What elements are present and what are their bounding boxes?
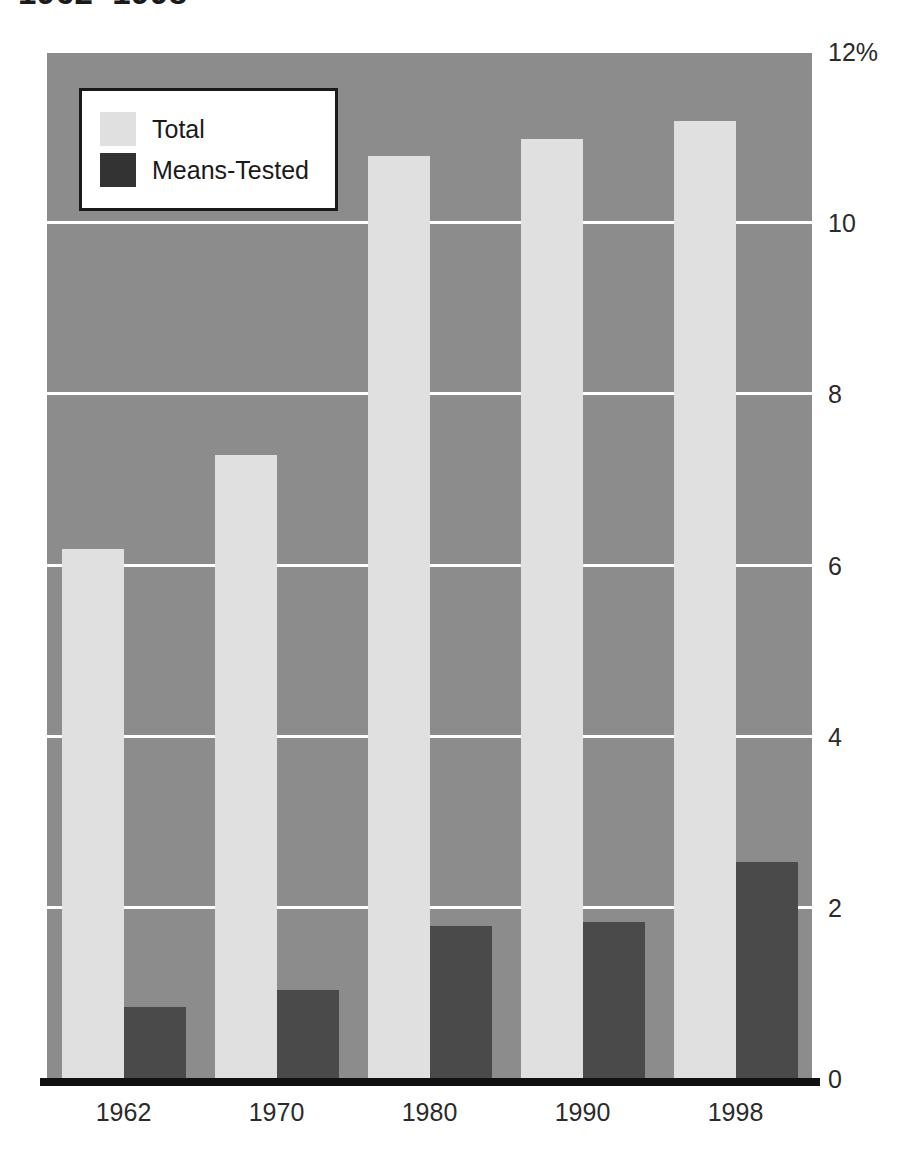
bar-1970-means-tested: [277, 990, 339, 1080]
chart-title: 1962–1998: [18, 0, 188, 12]
legend-label-means-tested: Means-Tested: [152, 158, 309, 183]
bar-1998-total: [674, 121, 736, 1080]
bar-1990-total: [521, 139, 583, 1080]
bar-1962-means-tested: [124, 1007, 186, 1080]
bar-1980-total: [368, 156, 430, 1080]
legend-item-means-tested: Means-Tested: [100, 153, 309, 187]
x-axis-line: [40, 1078, 820, 1086]
y-axis-label-2: 2: [828, 896, 842, 921]
y-axis-label-4: 4: [828, 725, 842, 750]
y-axis-label-12: 12%: [828, 40, 878, 65]
y-axis-label-6: 6: [828, 554, 842, 579]
x-axis-label-1990: 1990: [506, 1098, 659, 1127]
legend-item-total: Total: [100, 112, 309, 146]
y-axis-label-0: 0: [828, 1067, 842, 1092]
y-axis-label-8: 8: [828, 382, 842, 407]
bar-1998-means-tested: [736, 862, 798, 1080]
chart-legend: Total Means-Tested: [79, 88, 338, 211]
legend-swatch-means-tested-icon: [100, 153, 136, 187]
y-axis-label-10: 10: [828, 211, 856, 236]
bar-1970-total: [215, 455, 277, 1080]
legend-label-total: Total: [152, 117, 205, 142]
x-axis-label-1962: 1962: [47, 1098, 200, 1127]
x-axis-label-1980: 1980: [353, 1098, 506, 1127]
chart-container: 1962–1998 Total Means-Tested 19621970198…: [0, 0, 910, 1172]
legend-swatch-total-icon: [100, 112, 136, 146]
bar-1980-means-tested: [430, 926, 492, 1080]
x-axis-label-1998: 1998: [659, 1098, 812, 1127]
bar-1990-means-tested: [583, 922, 645, 1080]
bar-1962-total: [62, 549, 124, 1080]
x-axis-label-1970: 1970: [200, 1098, 353, 1127]
